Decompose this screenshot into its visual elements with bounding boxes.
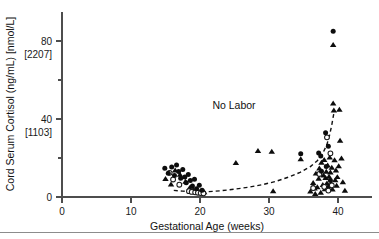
x-tick-label-30: 30 xyxy=(263,206,275,217)
x-tick-label-0: 0 xyxy=(59,206,65,217)
data-point-filled-circle xyxy=(324,164,329,169)
data-point-triangle xyxy=(340,179,346,184)
data-point-triangle xyxy=(338,155,344,160)
data-point-filled-circle xyxy=(172,173,177,178)
data-point-triangle xyxy=(326,174,332,179)
data-point-open-circle xyxy=(325,135,330,140)
data-point-filled-circle xyxy=(174,163,179,168)
y-tick-label-40-nmol: [1103] xyxy=(25,127,52,138)
data-point-triangle xyxy=(310,180,316,185)
data-point-triangle xyxy=(337,138,343,143)
x-tick-label-10: 10 xyxy=(125,206,137,217)
data-point-open-circle xyxy=(311,186,316,191)
data-point-filled-circle xyxy=(326,144,331,149)
annotation-no-labor: No Labor xyxy=(212,99,256,111)
data-point-open-circle xyxy=(329,183,334,188)
data-point-filled-circle xyxy=(166,171,171,176)
data-point-filled-circle xyxy=(169,164,174,169)
data-point-triangle xyxy=(334,174,340,179)
data-point-open-circle xyxy=(328,151,333,156)
data-point-triangle xyxy=(335,163,341,168)
x-axis-title: Gestational Age (weeks) xyxy=(150,220,264,232)
data-point-triangle xyxy=(336,107,342,112)
data-point-filled-circle xyxy=(186,172,191,177)
data-point-filled-circle xyxy=(162,166,167,171)
footer-divider xyxy=(0,232,379,233)
data-point-triangle xyxy=(270,188,276,193)
y-tick-label-40: 40 xyxy=(41,114,53,125)
data-point-triangle xyxy=(331,157,337,162)
data-point-triangle xyxy=(298,156,304,161)
data-point-filled-circle xyxy=(197,183,202,188)
data-point-triangle xyxy=(330,42,336,47)
data-point-open-circle xyxy=(326,188,331,193)
data-point-open-circle xyxy=(322,184,327,189)
x-axis-ticks xyxy=(62,197,338,203)
data-point-filled-circle xyxy=(328,178,333,183)
data-point-filled-circle xyxy=(190,184,195,189)
data-point-filled-circle xyxy=(331,29,336,34)
data-point-triangle xyxy=(233,160,239,165)
scatter-plot: 80 [2207] 40 [1103] 0 0 10 20 30 40 Gest… xyxy=(0,0,379,239)
data-point-filled-circle xyxy=(298,151,303,156)
x-tick-label-20: 20 xyxy=(194,206,206,217)
data-point-triangle xyxy=(269,149,275,154)
data-point-filled-circle xyxy=(180,167,185,172)
y-axis-title: Cord Serum Cortisol (ng/mL) [nmol/L] xyxy=(4,17,16,192)
data-point-open-circle xyxy=(177,182,182,187)
x-tick-label-40: 40 xyxy=(332,206,344,217)
y-tick-label-0: 0 xyxy=(46,192,52,203)
data-point-triangle xyxy=(255,148,261,153)
data-point-triangle xyxy=(162,176,168,181)
data-point-triangle xyxy=(342,188,348,193)
y-axis-ticks xyxy=(56,41,62,197)
data-point-filled-circle xyxy=(318,154,323,159)
data-point-triangle xyxy=(330,100,336,105)
data-point-triangle xyxy=(331,107,337,112)
data-point-filled-circle xyxy=(319,169,324,174)
y-tick-label-80-nmol: [2207] xyxy=(24,49,52,60)
figure-container: 80 [2207] 40 [1103] 0 0 10 20 30 40 Gest… xyxy=(0,0,379,239)
data-point-filled-circle xyxy=(192,177,197,182)
trend-line-no-labor xyxy=(174,113,334,192)
data-point-filled-circle xyxy=(323,130,328,135)
y-tick-label-80: 80 xyxy=(41,36,53,47)
data-point-filled-circle xyxy=(200,188,205,193)
